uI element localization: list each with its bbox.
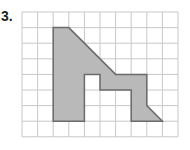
shaded-polygon [53, 28, 162, 122]
grid-figure [0, 0, 190, 150]
